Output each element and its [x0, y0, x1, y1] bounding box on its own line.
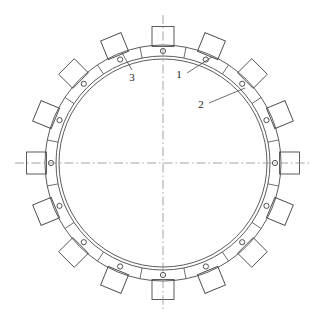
bolt-hole	[118, 57, 123, 62]
segment-joint-line	[252, 97, 261, 103]
tab	[59, 59, 89, 89]
segment-joint-line	[140, 47, 142, 58]
segment-joint-line	[222, 65, 228, 74]
tab-outline	[59, 238, 89, 268]
callout-label-1: 1	[176, 68, 182, 80]
bolt-hole	[81, 81, 86, 86]
bolt-hole	[81, 240, 86, 245]
bolt-hole	[118, 264, 123, 269]
segment-joint-line	[184, 268, 186, 279]
callout-label-3: 3	[129, 71, 135, 83]
bolt-hole	[57, 203, 62, 208]
bolt-hole	[203, 264, 208, 269]
segment-joint-line	[65, 97, 74, 103]
segment-joint-line	[47, 140, 58, 142]
segment-joint-line	[47, 184, 58, 186]
bolt-hole	[240, 81, 245, 86]
segment-joint-line	[97, 252, 103, 261]
segment-joint-line	[184, 47, 186, 58]
segment-joint-line	[268, 184, 279, 186]
bolt-hole	[264, 203, 269, 208]
tab	[238, 238, 268, 268]
segment-joint-line	[65, 222, 74, 228]
leader-line-2	[209, 88, 245, 103]
technical-drawing-canvas: 123	[0, 0, 321, 324]
bolt-hole	[57, 118, 62, 123]
segment-joint-line	[252, 222, 261, 228]
bolt-hole	[240, 240, 245, 245]
tab-outline	[59, 59, 89, 89]
segment-joint-line	[268, 140, 279, 142]
segment-joint-line	[140, 268, 142, 279]
callout-label-2: 2	[198, 98, 204, 110]
tab-outline	[238, 59, 268, 89]
segment-joint-line	[97, 65, 103, 74]
bolt-hole	[264, 118, 269, 123]
segment-joint-line	[222, 252, 228, 261]
tab	[238, 59, 268, 89]
tab-outline	[238, 238, 268, 268]
tab	[59, 238, 89, 268]
